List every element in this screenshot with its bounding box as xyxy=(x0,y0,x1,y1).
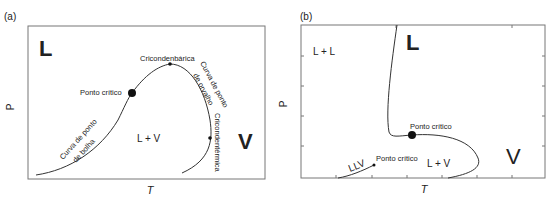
cricondenbar-label: Cricondenbárica xyxy=(140,54,195,63)
region-liquid-liquid: L + L xyxy=(313,46,336,57)
critical-point-lower-label: Ponto crítico xyxy=(376,154,418,163)
region-two-phase: L + V xyxy=(137,133,161,144)
panel-b: (b) P T L + L L xyxy=(278,11,545,195)
cricondentherm-marker xyxy=(208,136,212,140)
region-liquid: L xyxy=(406,30,419,55)
panel-a-tag: (a) xyxy=(4,11,16,22)
panel-a-x-label: T xyxy=(147,184,155,196)
critical-point-upper-marker xyxy=(408,131,416,139)
panel-b-tag: (b) xyxy=(300,11,312,22)
cricondentherm-label: Cricondentérmica xyxy=(213,113,222,173)
phase-diagrams: (a) P T L V L + V Ponto crítico Criconde… xyxy=(0,0,556,204)
panel-a: (a) P T L V L + V Ponto crítico Criconde… xyxy=(4,11,265,196)
region-llv: LLV xyxy=(347,157,367,174)
critical-point-upper-label: Ponto crítico xyxy=(410,122,452,131)
region-vapor: V xyxy=(506,144,521,169)
region-liquid: L xyxy=(39,36,52,61)
critical-point-lower-marker xyxy=(373,164,376,167)
panel-b-x-label: T xyxy=(421,183,429,195)
critical-point-label: Ponto crítico xyxy=(80,88,122,97)
critical-point-marker xyxy=(128,89,136,97)
region-vapor: V xyxy=(238,129,253,154)
region-two-phase: L + V xyxy=(427,158,451,169)
panel-b-y-label: P xyxy=(278,100,289,107)
panel-a-y-label: P xyxy=(5,103,16,110)
